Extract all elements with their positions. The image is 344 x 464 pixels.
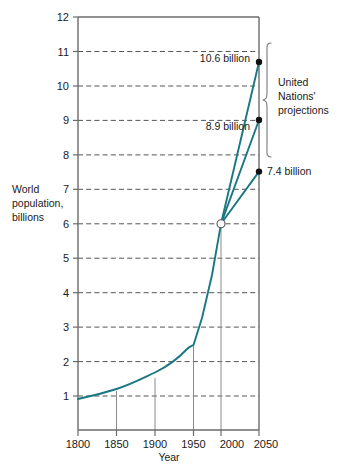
y-tick-label-1: 1 [63,390,69,402]
y-tick-label-12: 12 [57,11,69,23]
un-projections-line2: Nations' [278,90,316,102]
x-tick-label-1900: 1900 [143,438,167,450]
x-tick-label-2000: 2000 [220,438,244,450]
y-axis-title-line2: population, [12,197,63,209]
hinge-marker-2000 [217,220,225,228]
chart-svg: 12 11 10 9 8 7 6 5 4 3 2 1 1800 1850 190… [0,0,344,464]
y-tick-label-7: 7 [63,183,69,195]
endpoint-dot-medium [256,117,262,123]
y-tick-label-8: 8 [63,149,69,161]
x-tick-label-2050: 2050 [254,438,278,450]
un-projections-line1: United [278,76,309,88]
x-axis-title: Year [158,451,180,463]
x-tick-label-1850: 1850 [104,438,128,450]
y-tick-label-9: 9 [63,114,69,126]
y-tick-label-4: 4 [63,287,69,299]
y-tick-label-11: 11 [58,46,69,58]
y-tick-label-6: 6 [63,218,69,230]
annotation-low-label: 7.4 billion [267,165,312,177]
endpoint-dot-high [256,59,262,65]
un-projections-line3: projections [278,104,329,116]
annotation-high-label: 10.6 billion [200,52,250,64]
y-axis-title-line3: billions [12,211,44,223]
endpoint-dot-low [256,168,262,174]
world-population-chart: 12 11 10 9 8 7 6 5 4 3 2 1 1800 1850 190… [0,0,344,464]
chart-background [0,0,344,464]
y-tick-label-2: 2 [63,356,69,368]
x-tick-label-1800: 1800 [66,438,90,450]
y-tick-label-5: 5 [63,252,69,264]
y-tick-label-10: 10 [57,80,69,92]
y-axis-title-line1: World [12,183,39,195]
annotation-medium-label: 8.9 billion [206,120,251,132]
x-tick-label-1950: 1950 [181,438,205,450]
y-tick-label-3: 3 [63,321,69,333]
